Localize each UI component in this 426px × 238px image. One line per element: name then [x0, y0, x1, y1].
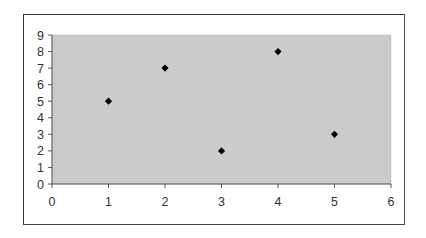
x-tick-label: 0	[49, 195, 56, 209]
y-axis-ticks: 0123456789	[37, 29, 52, 192]
y-tick-label: 2	[37, 144, 44, 158]
x-axis-ticks: 0123456	[49, 184, 395, 209]
y-tick-label: 4	[37, 111, 44, 125]
y-tick-label: 8	[37, 45, 44, 59]
scatter-chart: 0123456789 0123456	[0, 0, 426, 238]
x-tick-label: 1	[105, 195, 112, 209]
x-tick-label: 2	[162, 195, 169, 209]
y-tick-label: 3	[37, 128, 44, 142]
y-tick-label: 1	[37, 161, 44, 175]
y-tick-label: 5	[37, 95, 44, 109]
x-tick-label: 3	[218, 195, 225, 209]
y-tick-label: 0	[37, 178, 44, 192]
y-tick-label: 6	[37, 78, 44, 92]
x-tick-label: 6	[388, 195, 395, 209]
plot-area	[52, 35, 391, 184]
y-tick-label: 9	[37, 29, 44, 43]
y-tick-label: 7	[37, 62, 44, 76]
x-tick-label: 4	[275, 195, 282, 209]
x-tick-label: 5	[331, 195, 338, 209]
